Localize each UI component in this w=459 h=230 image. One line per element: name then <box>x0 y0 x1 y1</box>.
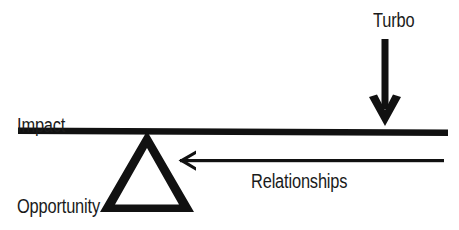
impact-label: Impact <box>17 112 100 139</box>
turbo-down-arrow <box>369 39 401 126</box>
fulcrum-triangle <box>100 131 194 212</box>
relationships-label: Relationships <box>251 171 347 191</box>
relationships-left-arrow <box>179 151 445 171</box>
opportunity-label: Opportunity <box>17 193 100 220</box>
diagram-canvas: Impact Opportunity Turbo Relationships <box>0 0 459 230</box>
impact-opportunity-label: Impact Opportunity <box>17 58 100 230</box>
relationships-arrow-line <box>180 159 444 162</box>
turbo-arrow-shaft <box>382 39 389 109</box>
turbo-label: Turbo <box>373 10 414 30</box>
